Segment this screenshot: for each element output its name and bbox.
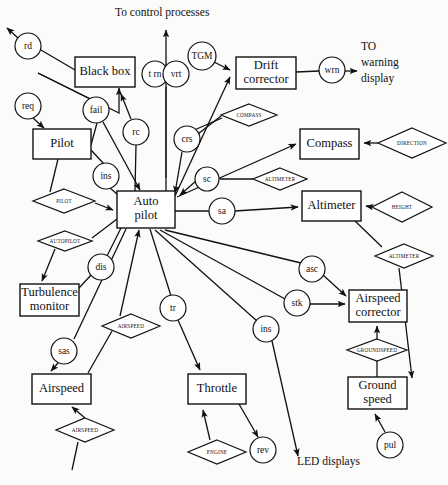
box-label-airspeed-corrector: corrector <box>355 305 401 319</box>
edge-ins2-led <box>272 341 298 456</box>
box-label-pilot: Pilot <box>50 136 74 150</box>
circle-label-tr: tr <box>170 303 177 313</box>
edge-dis-turbulence <box>79 274 92 288</box>
circle-label-trn: t rn <box>149 69 162 79</box>
circle-label-rev: rev <box>257 445 269 455</box>
circle-label-rd: rd <box>24 41 32 51</box>
circle-label-vrt: vrt <box>171 69 182 79</box>
edge-airspeedstore-down <box>88 331 112 373</box>
circle-label-ins2: ins <box>260 324 271 334</box>
diagram-canvas: Black boxDriftcorrectorPilotCompassAutop… <box>0 0 448 485</box>
edge-rd-out <box>7 28 18 38</box>
circle-label-ins1: ins <box>100 171 111 181</box>
box-label-ground-speed: Ground <box>358 378 397 392</box>
circle-label-asc: asc <box>306 264 318 274</box>
label-to-warning-3: display <box>361 72 394 85</box>
edge-sa-altimeter <box>235 207 298 211</box>
circle-label-wrn: wrn <box>325 65 340 75</box>
circle-label-rc: rc <box>132 127 139 137</box>
edge-airspeedstore2-tail <box>72 442 78 470</box>
edge-autopilot-asc <box>165 230 301 263</box>
edge-tgm-drift <box>214 62 230 70</box>
edge-engine-throttle <box>203 410 210 440</box>
edge-pilot-pilotstore <box>50 159 58 192</box>
diamond-label-engine-store: ENGINE <box>207 449 228 455</box>
label-to-warning-1: TO <box>361 40 376 52</box>
circle-label-sas: sas <box>58 346 70 356</box>
label-to-control-processes: To control processes <box>115 6 210 19</box>
edge-pilot-ins1 <box>91 150 104 164</box>
diamond-label-direction-store: DIRECTION <box>397 140 427 146</box>
edge-airspeedstore2-airspeed <box>72 407 85 418</box>
edge-rc-blackbox <box>121 94 131 119</box>
box-label-drift-corrector: Drift <box>254 58 279 72</box>
box-label-throttle: Throttle <box>197 381 238 395</box>
box-label-airspeed-corrector: Airspeed <box>355 291 401 305</box>
edge-pilot-fail <box>91 123 97 145</box>
edge-apstore-turbulence <box>42 249 55 281</box>
diamond-label-altimeter-store-2: ALTIMETER <box>389 253 420 259</box>
circle-label-pul: pul <box>384 440 397 450</box>
edge-req-pilot <box>33 118 44 128</box>
edge-tr-throttle <box>178 320 200 370</box>
edge-pilotstore-autopilot <box>95 203 113 210</box>
circle-label-req: req <box>22 101 34 111</box>
circle-label-tgm: TGM <box>191 51 213 61</box>
box-label-drift-corrector: corrector <box>243 72 289 86</box>
diamond-label-groundspeed-store: GROUNDSPEED <box>357 347 397 353</box>
label-led-displays: LED displays <box>297 455 360 468</box>
edge-autopilot-rc <box>135 145 136 191</box>
box-label-altimeter: Altimeter <box>308 198 357 212</box>
diamond-label-airspeed-store-2: AIRSPEED <box>72 427 98 433</box>
box-label-black-box: Black box <box>79 64 131 78</box>
diamond-label-pilot-store: PILOT <box>56 198 72 204</box>
circle-label-sa: sa <box>218 206 227 216</box>
edge-autopilot-apstore <box>92 219 117 238</box>
edge-compassstore-crs <box>192 118 222 131</box>
edge-crs-autopilot <box>175 152 182 193</box>
edge-blackbox-rd <box>41 50 75 70</box>
box-label-compass: Compass <box>307 136 353 150</box>
edge-airspeedstore-autopilot <box>120 230 139 316</box>
circle-label-fail: fail <box>90 105 103 115</box>
edge-drift-wrn <box>296 71 319 72</box>
box-label-ground-speed: speed <box>363 392 392 406</box>
box-label-auto-pilot: Auto <box>134 194 159 208</box>
diamond-label-altimeter-store-1: ALTIMETER <box>265 176 296 182</box>
circle-label-sc: sc <box>203 174 211 184</box>
edge-autopilot-dis <box>107 228 121 256</box>
box-label-airspeed: Airspeed <box>39 381 85 395</box>
diamond-label-height-store: HEIGHT <box>392 204 413 210</box>
edge-autopilot-stk <box>160 230 285 299</box>
edge-sas-airspeed <box>51 363 58 371</box>
diamond-label-autopilot-store: AUTOPILOT <box>50 238 81 244</box>
edge-sc-autopilot <box>180 181 196 195</box>
edge-asc-corrector <box>323 275 346 296</box>
diamond-label-airspeed-store-1: AIRSPEED <box>118 323 144 329</box>
box-label-auto-pilot: pilot <box>135 208 158 222</box>
circle-label-stk: stk <box>291 298 302 308</box>
edge-throttle-rev <box>239 404 258 437</box>
box-label-turbulence-monitor: monitor <box>30 299 70 313</box>
circle-label-crs: crs <box>181 134 192 144</box>
edge-pul-ground <box>375 414 385 432</box>
box-label-turbulence-monitor: Turbulence <box>21 285 78 299</box>
circle-label-dis: dis <box>95 262 106 272</box>
dfd-svg: Black boxDriftcorrectorPilotCompassAutop… <box>0 0 448 485</box>
edge-altimeter-altstore2 <box>355 221 382 247</box>
label-to-warning-2: warning <box>361 56 399 69</box>
edge-altstore2-ground <box>399 268 412 378</box>
edge-autopilot-tr <box>150 229 171 296</box>
diamond-label-compass-store: COMPASS <box>236 112 261 118</box>
